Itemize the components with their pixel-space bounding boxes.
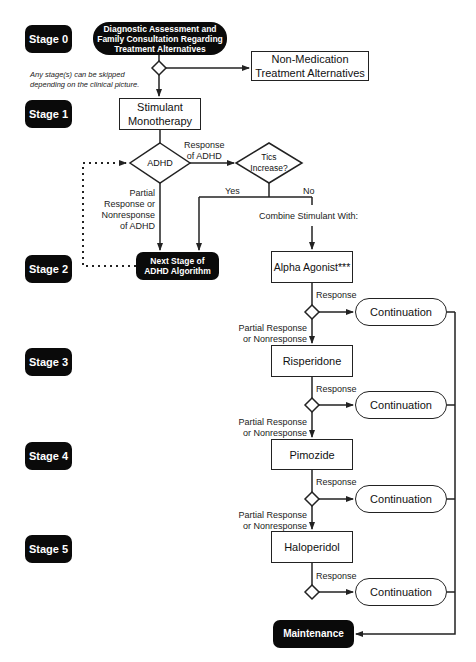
response-of-adhd-label: Response of ADHD bbox=[184, 140, 225, 162]
edge-text: or Nonresponse bbox=[230, 521, 307, 532]
stage-1-label: Stage 1 bbox=[25, 100, 72, 128]
stage-3-label: Stage 3 bbox=[25, 348, 72, 376]
edge-text: Partial Response bbox=[230, 417, 307, 428]
edge-text: or Nonresponse bbox=[230, 334, 307, 345]
node-text: Next Stage of bbox=[150, 256, 204, 266]
continuation-node: Continuation bbox=[355, 391, 447, 419]
diagnostic-assessment-node: Diagnostic Assessment and Family Consult… bbox=[93, 22, 227, 55]
node-text: Diagnostic Assessment and bbox=[103, 24, 216, 34]
node-text: Treatment Alternatives bbox=[114, 44, 205, 54]
response-label: Response bbox=[316, 290, 357, 301]
decision-diamond-stage0 bbox=[152, 61, 166, 75]
node-text: Stimulant bbox=[137, 100, 183, 114]
edge-text: or Nonresponse bbox=[230, 428, 307, 439]
tics-decision-label: Tics Increase? bbox=[240, 151, 298, 175]
edge-text: Partial Response bbox=[230, 510, 307, 521]
node-text: Family Consultation Regarding bbox=[97, 34, 223, 44]
stage-0-label: Stage 0 bbox=[25, 25, 72, 53]
combine-stimulant-label: Combine Stimulant With: bbox=[259, 211, 358, 222]
maintenance-node: Maintenance bbox=[273, 620, 354, 648]
haloperidol-node: Haloperidol bbox=[271, 531, 353, 563]
skip-note-line: depending on the clinical picture. bbox=[30, 80, 139, 90]
node-text: ADHD Algorithm bbox=[144, 266, 211, 276]
next-stage-adhd-node: Next Stage of ADHD Algorithm bbox=[136, 252, 219, 280]
edge-text: Nonresponse bbox=[100, 210, 155, 221]
adhd-decision-label: ADHD bbox=[135, 156, 185, 170]
edge-text: Response bbox=[184, 140, 225, 151]
response-label: Response bbox=[316, 384, 357, 395]
node-text: Monotherapy bbox=[128, 114, 192, 128]
pimozide-node: Pimozide bbox=[271, 439, 353, 470]
stimulant-monotherapy-node: Stimulant Monotherapy bbox=[119, 98, 201, 130]
alpha-agonist-node: Alpha Agonist*** bbox=[271, 251, 353, 283]
skip-note-line: Any stage(s) can be skipped bbox=[30, 70, 139, 80]
edge-text: Partial bbox=[100, 188, 155, 199]
continuation-node: Continuation bbox=[355, 485, 447, 513]
partial-response-adhd-label: Partial Response or Nonresponse of ADHD bbox=[100, 188, 155, 232]
node-text: Tics bbox=[261, 152, 276, 163]
edge-text: Response or bbox=[100, 199, 155, 210]
stage-4-label: Stage 4 bbox=[25, 442, 72, 470]
node-text: Treatment Alternatives bbox=[255, 66, 365, 80]
node-text: Non-Medication bbox=[271, 52, 348, 66]
risperidone-node: Risperidone bbox=[271, 345, 353, 377]
continuation-node: Continuation bbox=[355, 298, 447, 326]
edge-text: of ADHD bbox=[184, 151, 225, 162]
response-label: Response bbox=[316, 571, 357, 582]
stage-5-label: Stage 5 bbox=[25, 535, 72, 563]
continuation-node: Continuation bbox=[355, 578, 447, 606]
partial-response-label: Partial Response or Nonresponse bbox=[230, 417, 307, 439]
no-label: No bbox=[303, 186, 315, 197]
node-text: Increase? bbox=[250, 163, 287, 174]
stage-2-label: Stage 2 bbox=[25, 255, 72, 283]
partial-response-label: Partial Response or Nonresponse bbox=[230, 510, 307, 532]
skip-note: Any stage(s) can be skipped depending on… bbox=[30, 70, 139, 90]
edge-text: of ADHD bbox=[100, 221, 155, 232]
response-label: Response bbox=[316, 477, 357, 488]
non-medication-node: Non-Medication Treatment Alternatives bbox=[251, 51, 369, 81]
partial-response-label: Partial Response or Nonresponse bbox=[230, 323, 307, 345]
yes-label: Yes bbox=[225, 186, 240, 197]
edge-text: Partial Response bbox=[230, 323, 307, 334]
